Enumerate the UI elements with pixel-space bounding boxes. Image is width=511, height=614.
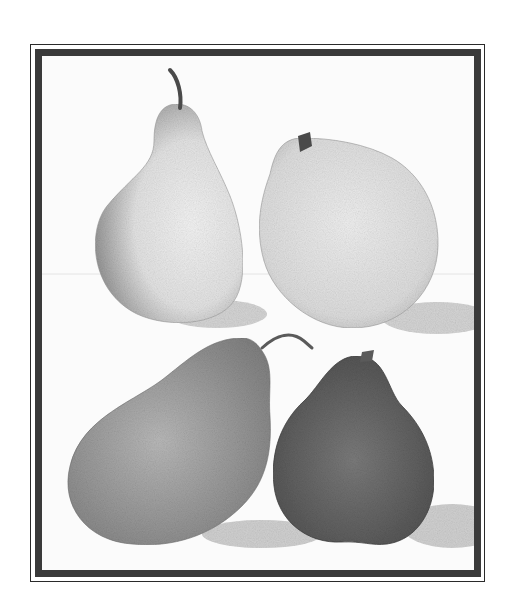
pear-top-right — [259, 132, 438, 328]
pear-bottom-right — [273, 350, 434, 544]
pear-top-left — [95, 70, 243, 323]
pear-bottom-left — [68, 335, 312, 545]
illustration-canvas — [42, 56, 474, 570]
